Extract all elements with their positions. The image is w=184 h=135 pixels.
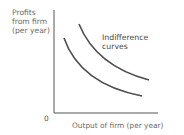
curves-label-line: Indifference [102,33,148,42]
x-axis-label: Output of firm (per year) [72,121,164,130]
y-axis-label: Profits from firm (per year) [12,8,50,35]
y-axis-label-line: (per year) [12,26,50,35]
y-axis-label-line: from firm [12,17,50,26]
curves-label-line: curves [102,42,148,51]
y-axis-label-line: Profits [12,8,50,17]
curves-label: Indifference curves [102,33,148,51]
origin-label: 0 [44,114,49,123]
